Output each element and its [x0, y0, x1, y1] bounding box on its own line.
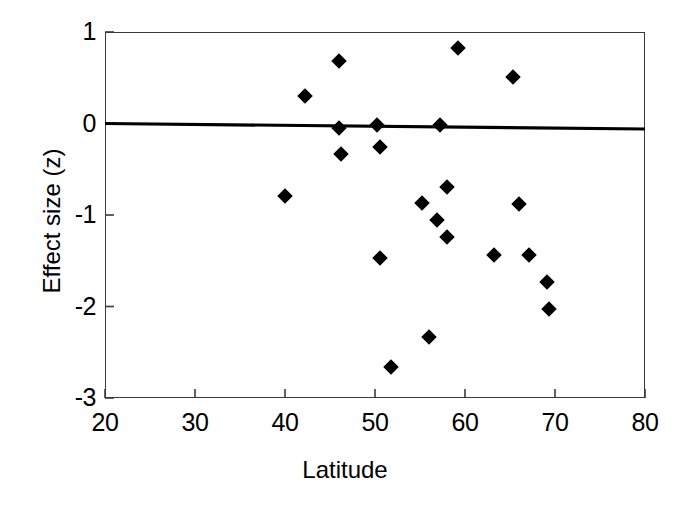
x-tick-label: 60: [435, 410, 495, 435]
scatter-plot-figure: 10-1-2-3 20304050607080 Effect size (z) …: [0, 0, 690, 510]
x-axis-title: Latitude: [0, 456, 690, 484]
x-tick-label: 30: [165, 410, 225, 435]
x-tick-label: 70: [525, 410, 585, 435]
x-tick-label: 40: [255, 410, 315, 435]
x-tick-label: 20: [75, 410, 135, 435]
y-axis-title: Effect size (z): [38, 91, 66, 351]
x-tick-label: 80: [615, 410, 675, 435]
x-tick-label: 50: [345, 410, 405, 435]
x-axis-tick-labels: 20304050607080: [0, 0, 690, 510]
